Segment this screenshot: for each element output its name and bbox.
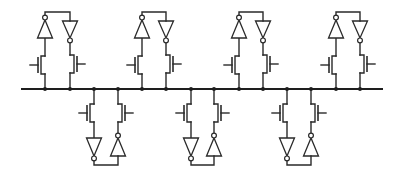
transistor-channel — [263, 55, 267, 73]
transistor-channel — [166, 55, 170, 73]
feedback-wire — [336, 12, 360, 21]
junction-dot — [140, 87, 144, 91]
junction-dot — [92, 87, 96, 91]
junction-dot — [237, 87, 241, 91]
nmos-transistor-left — [224, 56, 239, 74]
inverter-bubble — [68, 38, 73, 43]
nmos-transistor-right — [70, 55, 85, 73]
latch-cell-7-top — [321, 12, 375, 91]
transistor-channel — [332, 56, 336, 74]
nmos-transistor-right — [166, 55, 181, 73]
inverter-bubble — [334, 15, 339, 20]
nmos-transistor-left — [272, 104, 287, 122]
junction-dot — [43, 87, 47, 91]
nmos-transistor-left — [176, 104, 191, 122]
junction-dot — [358, 87, 362, 91]
inverter-up — [329, 15, 344, 38]
inverter-bubble — [261, 38, 266, 43]
inverter-triangle — [256, 21, 271, 38]
latch-cell-4-bottom — [176, 87, 229, 165]
inverter-triangle — [159, 21, 174, 38]
inverter-bubble — [285, 156, 290, 161]
inverter-bubble — [358, 38, 363, 43]
inverter-triangle — [38, 20, 53, 38]
inverter-up — [207, 133, 222, 156]
feedback-wire — [287, 156, 311, 165]
transistor-channel — [70, 55, 74, 73]
feedback-wire — [191, 156, 214, 165]
latch-cell-6-bottom — [272, 87, 326, 165]
nmos-transistor-left — [30, 56, 45, 74]
inverter-down — [184, 138, 199, 161]
junction-dot — [68, 87, 72, 91]
inverter-bubble — [43, 15, 48, 20]
transistor-channel — [214, 104, 218, 122]
nmos-transistor-left — [321, 56, 336, 74]
inverter-triangle — [353, 21, 368, 38]
transistor-channel — [90, 104, 94, 122]
inverter-bubble — [164, 38, 169, 43]
inverter-triangle — [87, 138, 102, 156]
nmos-transistor-left — [127, 56, 142, 74]
nmos-transistor-right — [214, 104, 229, 122]
junction-dot — [116, 87, 120, 91]
inverter-bubble — [92, 156, 97, 161]
inverter-up — [232, 15, 247, 38]
inverter-up — [111, 133, 126, 156]
inverter-bubble — [237, 15, 242, 20]
latch-array-diagram — [0, 0, 404, 176]
inverter-down — [63, 21, 78, 43]
transistor-channel — [283, 104, 287, 122]
junction-dot — [309, 87, 313, 91]
inverter-triangle — [329, 20, 344, 38]
junction-dot — [285, 87, 289, 91]
inverter-triangle — [207, 138, 222, 156]
transistor-channel — [118, 104, 122, 122]
nmos-transistor-right — [118, 104, 133, 122]
latch-cell-3-top — [127, 12, 181, 91]
transistor-channel — [138, 56, 142, 74]
feedback-wire — [142, 12, 166, 21]
inverter-down — [280, 138, 295, 161]
feedback-wire — [45, 12, 70, 21]
transistor-channel — [187, 104, 191, 122]
inverter-down — [159, 21, 174, 43]
junction-dot — [212, 87, 216, 91]
latch-cell-2-bottom — [79, 87, 133, 165]
junction-dot — [261, 87, 265, 91]
inverter-triangle — [304, 138, 319, 156]
inverter-down — [353, 21, 368, 43]
inverter-triangle — [63, 21, 78, 38]
transistor-channel — [235, 56, 239, 74]
inverter-bubble — [140, 15, 145, 20]
inverter-bubble — [116, 133, 121, 138]
inverter-up — [304, 133, 319, 156]
inverter-triangle — [232, 20, 247, 38]
inverter-bubble — [212, 133, 217, 138]
latch-cell-1-top — [30, 12, 85, 91]
junction-dot — [334, 87, 338, 91]
inverter-triangle — [184, 138, 199, 156]
inverter-down — [256, 21, 271, 43]
nmos-transistor-right — [263, 55, 278, 73]
junction-dot — [189, 87, 193, 91]
nmos-transistor-right — [360, 55, 375, 73]
junction-dot — [164, 87, 168, 91]
nmos-transistor-right — [311, 104, 326, 122]
inverter-bubble — [189, 156, 194, 161]
transistor-channel — [41, 56, 45, 74]
transistor-channel — [360, 55, 364, 73]
inverter-up — [135, 15, 150, 38]
latch-cell-5-top — [224, 12, 278, 91]
nmos-transistor-left — [79, 104, 94, 122]
feedback-wire — [239, 12, 263, 21]
transistor-channel — [311, 104, 315, 122]
inverter-triangle — [111, 138, 126, 156]
inverter-bubble — [309, 133, 314, 138]
inverter-triangle — [135, 20, 150, 38]
feedback-wire — [94, 156, 118, 165]
inverter-triangle — [280, 138, 295, 156]
inverter-down — [87, 138, 102, 161]
inverter-up — [38, 15, 53, 38]
